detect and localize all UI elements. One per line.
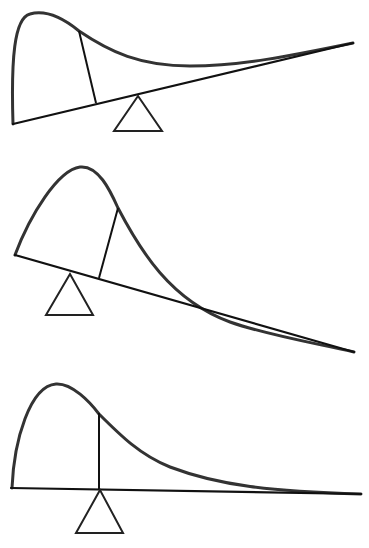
fulcrum-triangle-icon [46, 274, 93, 315]
distribution-curve [15, 167, 354, 352]
panel-2 [15, 167, 354, 352]
panel-1 [12, 13, 353, 131]
divider-line [99, 208, 118, 278]
fulcrum-triangle-icon [76, 490, 123, 533]
distribution-curve [12, 384, 361, 494]
distribution-curve [12, 13, 353, 124]
panel-3 [11, 384, 361, 533]
beam-baseline [13, 43, 353, 124]
fulcrum-triangle-icon [114, 96, 162, 131]
balance-diagram [0, 0, 369, 548]
diagram-canvas [0, 0, 369, 548]
